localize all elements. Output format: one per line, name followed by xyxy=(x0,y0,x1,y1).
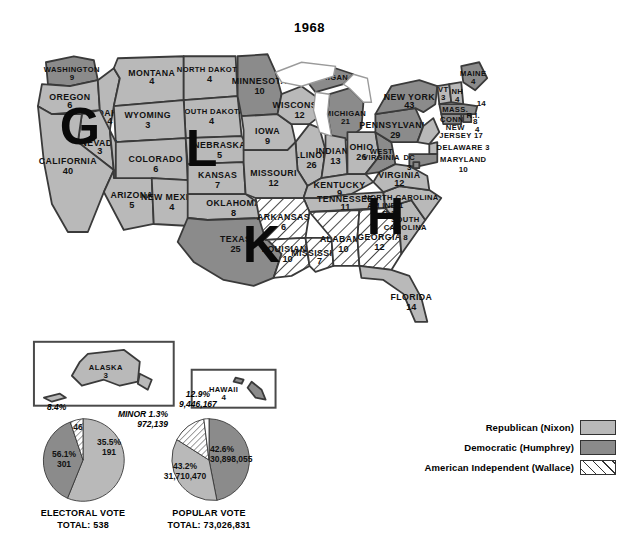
legend-swatch-democratic xyxy=(580,440,616,455)
us-election-map: WASHINGTON9 OREGON6 IDAHO4 MONTANA4 NORT… xyxy=(0,18,619,418)
svg-text:7: 7 xyxy=(317,256,322,266)
electoral-democratic-label: 35.5%191 xyxy=(82,437,136,457)
svg-text:21: 21 xyxy=(341,117,350,126)
svg-text:DC: DC xyxy=(403,153,415,162)
svg-text:10: 10 xyxy=(254,86,264,96)
legend-row-democratic: Democratic (Humphrey) xyxy=(404,438,616,456)
svg-text:3: 3 xyxy=(145,120,150,130)
svg-text:26: 26 xyxy=(306,160,316,170)
svg-text:9: 9 xyxy=(70,73,75,82)
svg-text:43: 43 xyxy=(404,100,414,110)
map-letter-k: K xyxy=(243,215,281,273)
popular-democratic-label: 42.6%30,898,055 xyxy=(210,444,270,464)
svg-text:3: 3 xyxy=(441,93,446,102)
svg-text:CALIFORNIA: CALIFORNIA xyxy=(39,156,97,166)
popular-minor-label: MINOR 1.3%972,139 xyxy=(82,409,168,429)
svg-text:WYOMING: WYOMING xyxy=(124,110,171,120)
svg-text:3: 3 xyxy=(104,371,109,380)
svg-text:IOWA: IOWA xyxy=(255,126,280,136)
svg-text:NORTH DAKOTA: NORTH DAKOTA xyxy=(177,65,243,74)
svg-text:4: 4 xyxy=(455,95,460,104)
vote-pie-charts: 56.1%301 35.5%191 8.4% 46 ELECTORAL VOTE… xyxy=(0,392,300,542)
svg-text:13: 13 xyxy=(330,156,340,166)
svg-text:5: 5 xyxy=(217,150,222,160)
svg-text:VIRGINIA: VIRGINIA xyxy=(363,153,400,162)
svg-text:6: 6 xyxy=(153,164,158,174)
svg-text:9: 9 xyxy=(265,136,270,146)
svg-text:4: 4 xyxy=(169,202,175,212)
svg-text:MARYLAND: MARYLAND xyxy=(440,155,486,164)
electoral-aip-label: 8.4% xyxy=(47,402,66,412)
svg-text:OKLAHOMA: OKLAHOMA xyxy=(206,198,261,208)
legend-label-democratic: Democratic (Humphrey) xyxy=(464,442,574,453)
svg-text:4: 4 xyxy=(107,116,113,126)
svg-text:3: 3 xyxy=(407,163,412,172)
svg-text:7: 7 xyxy=(215,180,220,190)
svg-text:R.I.: R.I. xyxy=(467,111,480,120)
popular-aip-label: 12.9%9,446,167 xyxy=(179,389,217,409)
legend-swatch-republican xyxy=(580,420,616,435)
electoral-pie-caption: ELECTORAL VOTETOTAL: 538 xyxy=(28,507,138,531)
popular-republican-label: 43.2%31,710,470 xyxy=(152,461,218,481)
svg-text:MISSOURI: MISSOURI xyxy=(250,168,297,178)
electoral-pie-chart: 56.1%301 35.5%191 8.4% 46 ELECTORAL VOTE… xyxy=(40,417,126,503)
popular-pie-caption: POPULAR VOTETOTAL: 73,026,831 xyxy=(140,507,278,531)
svg-text:4: 4 xyxy=(207,74,213,84)
svg-text:PENNSYLVANIA: PENNSYLVANIA xyxy=(359,120,431,130)
svg-text:4: 4 xyxy=(149,76,155,86)
svg-text:10: 10 xyxy=(338,244,348,254)
svg-text:8: 8 xyxy=(231,208,236,218)
election-map-figure: 1968 WASHINGTON9 OREGON6 IDAHO4 MONTANA4… xyxy=(0,0,619,558)
svg-text:14: 14 xyxy=(406,302,417,312)
svg-text:MASS.: MASS. xyxy=(442,105,468,114)
legend-row-american-independent: American Independent (Wallace) xyxy=(404,458,616,476)
svg-text:SOUTH DAKOTA: SOUTH DAKOTA xyxy=(179,107,244,116)
legend-label-american-independent: American Independent (Wallace) xyxy=(425,462,574,473)
popular-pie-chart: 42.6%30,898,055 43.2%31,710,470 12.9%9,4… xyxy=(166,417,252,503)
svg-text:12: 12 xyxy=(268,178,278,188)
svg-text:10: 10 xyxy=(459,165,468,174)
svg-text:6: 6 xyxy=(281,222,286,232)
map-letter-g: G xyxy=(60,97,100,155)
svg-text:12: 12 xyxy=(294,110,304,120)
map-legend: Republican (Nixon) Democratic (Humphrey)… xyxy=(404,418,616,478)
legend-swatch-american-independent xyxy=(580,460,616,475)
svg-text:4: 4 xyxy=(471,77,476,86)
svg-text:29: 29 xyxy=(390,130,400,140)
svg-text:40: 40 xyxy=(63,166,73,176)
map-letter-h: H xyxy=(367,187,405,245)
svg-text:FLORIDA: FLORIDA xyxy=(390,292,432,302)
map-letter-l: L xyxy=(186,119,218,177)
legend-row-republican: Republican (Nixon) xyxy=(404,418,616,436)
state-dc xyxy=(413,162,419,168)
svg-text:25: 25 xyxy=(231,244,241,254)
svg-text:DELAWARE 3: DELAWARE 3 xyxy=(437,143,490,152)
hawaii-isles xyxy=(234,378,244,384)
svg-text:14: 14 xyxy=(477,99,486,108)
svg-text:COLORADO: COLORADO xyxy=(129,154,183,164)
svg-text:4: 4 xyxy=(475,125,480,134)
svg-text:5: 5 xyxy=(129,200,134,210)
legend-label-republican: Republican (Nixon) xyxy=(486,422,574,433)
